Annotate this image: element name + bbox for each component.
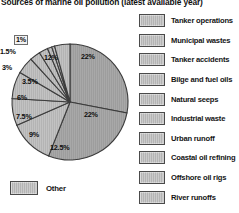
legend-item-bilge-and-fuel-oils[interactable]: Bilge and fuel oils xyxy=(139,70,239,90)
legend-item-offshore-oil-rigs[interactable]: Offshore oil rigs xyxy=(139,168,239,188)
legend-item-river-runoffs[interactable]: River runoffs xyxy=(139,187,239,207)
pie-label-3: 3% xyxy=(2,64,12,72)
pie-label-22-bottom: 22% xyxy=(84,111,98,119)
legend: Tanker operations Municipal wastes Tanke… xyxy=(139,11,239,211)
legend-swatch-icon xyxy=(139,93,165,106)
legend-label: Tanker operations xyxy=(171,16,233,25)
legend-item-urban-runoff[interactable]: Urban runoff xyxy=(139,129,239,149)
legend-swatch-icon xyxy=(139,151,165,164)
pie-label-1-5: 1.5% xyxy=(0,48,16,56)
legend-item-tanker-operations[interactable]: Tanker operations xyxy=(139,11,239,31)
legend-item-tanker-accidents[interactable]: Tanker accidents xyxy=(139,50,239,70)
legend-label: River runoffs xyxy=(171,193,216,202)
legend-label: Coastal oil refining xyxy=(171,153,235,162)
pie-label-1: 1% xyxy=(14,35,28,45)
chart-title: Sources of marine oil pollution (latest … xyxy=(1,0,237,8)
legend-swatch-icon xyxy=(139,191,165,204)
pie-chart-graphic: 22% 22% 12.5% 9% 7.5% 6% 3.5% 3% 1.5% 1%… xyxy=(0,18,140,173)
legend-item-natural-seeps[interactable]: Natural seeps xyxy=(139,89,239,109)
legend-swatch-icon xyxy=(139,73,165,86)
legend-label: Municipal wastes xyxy=(171,36,230,45)
legend-swatch-icon xyxy=(139,132,165,145)
pie-slice-tanker-operations xyxy=(70,44,128,113)
legend-label: Industrial waste xyxy=(171,114,225,123)
pie-label-12-5: 12.5% xyxy=(50,144,69,152)
legend-swatch-icon xyxy=(139,53,165,66)
legend-swatch-icon xyxy=(139,34,165,47)
legend-label: Bilge and fuel oils xyxy=(171,75,232,84)
legend-swatch-icon xyxy=(139,112,165,125)
legend-label: Tanker accidents xyxy=(171,55,229,64)
legend-item-industrial-waste[interactable]: Industrial waste xyxy=(139,109,239,129)
legend-swatch-icon xyxy=(139,14,165,27)
legend-label: Offshore oil rigs xyxy=(171,173,226,182)
pie-label-22-top: 22% xyxy=(81,53,95,61)
pie-chart-figure: Sources of marine oil pollution (latest … xyxy=(0,0,239,213)
legend-label: Other xyxy=(46,184,66,193)
legend-swatch-icon xyxy=(10,181,38,195)
legend-item-coastal-oil-refining[interactable]: Coastal oil refining xyxy=(139,148,239,168)
legend-label: Urban runoff xyxy=(171,134,215,143)
pie-label-9: 9% xyxy=(29,131,39,139)
pie-label-7-5: 7.5% xyxy=(16,113,32,121)
legend-item-other[interactable]: Other xyxy=(10,181,66,195)
legend-swatch-icon xyxy=(139,171,165,184)
pie-label-3-5: 3.5% xyxy=(22,78,38,86)
legend-label: Natural seeps xyxy=(171,95,218,104)
pie-label-12: 12% xyxy=(44,54,58,62)
pie-label-6: 6% xyxy=(17,94,27,102)
legend-item-municipal-wastes[interactable]: Municipal wastes xyxy=(139,31,239,51)
